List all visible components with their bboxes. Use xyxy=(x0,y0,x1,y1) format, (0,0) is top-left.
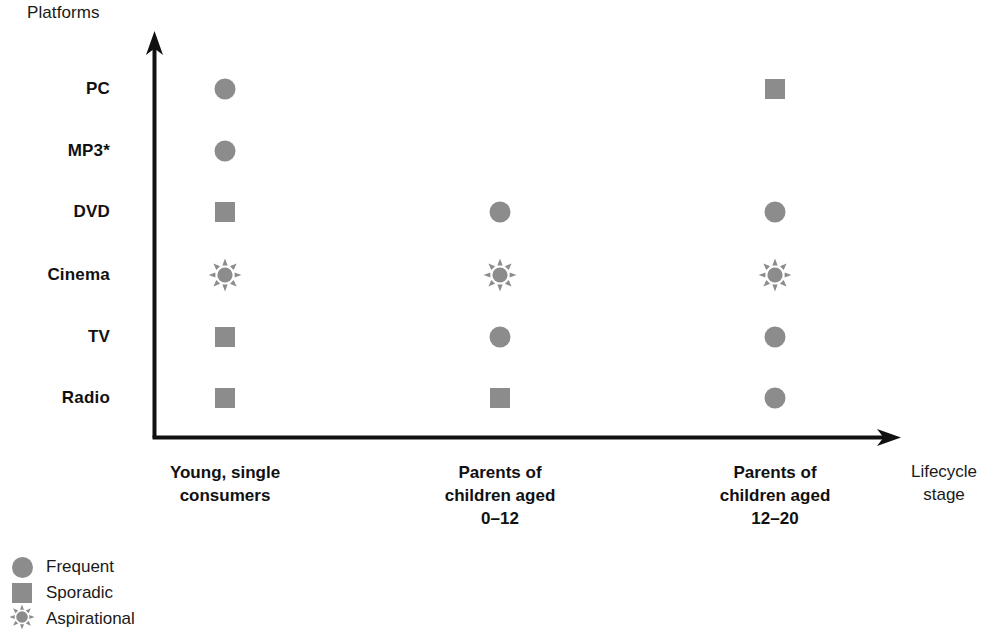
sun-icon xyxy=(9,604,35,634)
legend-label-sporadic: Sporadic xyxy=(46,583,113,603)
marker-sporadic-square xyxy=(215,327,235,347)
marker-sporadic-square xyxy=(765,79,785,99)
marker-frequent-circle xyxy=(765,202,786,223)
legend-label-frequent: Frequent xyxy=(46,557,114,577)
marker-sporadic-square xyxy=(215,202,235,222)
marker-frequent-circle xyxy=(215,79,236,100)
legend-item-sporadic: Sporadic xyxy=(8,580,135,606)
marker-sporadic-square xyxy=(490,388,510,408)
aspirational-marker-icon xyxy=(8,606,36,632)
legend-item-frequent: Frequent xyxy=(8,554,135,580)
marker-sporadic-square xyxy=(215,388,235,408)
chart-legend: Frequent Sporadic Aspirational xyxy=(8,554,135,632)
chart-figure: Platforms PC MP3* DVD Cinema TV Radio Yo… xyxy=(0,0,993,637)
marker-frequent-circle xyxy=(490,202,511,223)
plot-area xyxy=(0,0,993,637)
marker-frequent-circle xyxy=(490,327,511,348)
marker-aspirational-sun-icon xyxy=(208,258,242,292)
sporadic-marker-icon xyxy=(8,580,36,606)
marker-frequent-circle xyxy=(215,141,236,162)
frequent-marker-icon xyxy=(8,554,36,580)
legend-label-aspirational: Aspirational xyxy=(46,609,135,629)
marker-frequent-circle xyxy=(765,388,786,409)
marker-aspirational-sun-icon xyxy=(758,258,792,292)
marker-aspirational-sun-icon xyxy=(483,258,517,292)
marker-frequent-circle xyxy=(765,327,786,348)
legend-item-aspirational: Aspirational xyxy=(8,606,135,632)
